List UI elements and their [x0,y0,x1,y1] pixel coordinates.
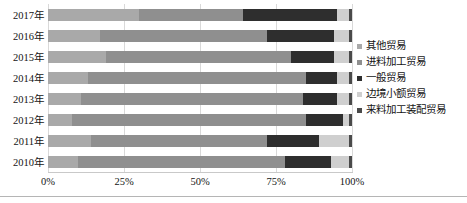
bar-segment [334,51,349,63]
legend-swatch-icon [357,44,362,49]
bar-segment [48,72,88,84]
x-axis-tick-labels: 0%25%50%75%100% [0,176,467,192]
bar-row [48,114,352,126]
bar-segment [48,114,72,126]
bar-segment [349,114,352,126]
x-axis-tick-label: 0% [28,176,68,188]
bar-segment [100,30,267,42]
bar-segment [331,156,349,168]
bar-segment [306,72,336,84]
y-axis-label: 2016年 [0,31,44,42]
bar-segment [48,156,78,168]
plot-area [48,4,352,172]
bar-row [48,93,352,105]
bar-row [48,72,352,84]
bar-segment [337,93,349,105]
legend-swatch-icon [357,92,362,97]
legend-swatch-icon [357,76,362,81]
stacked-bar-chart: 2017年2016年2015年2014年2013年2012年2011年2010年… [0,0,467,203]
bar-segment [243,9,337,21]
bar-segment [48,9,139,21]
bar-segment [139,9,242,21]
y-axis-label: 2011年 [0,136,44,147]
legend-label: 边境小额贸易 [366,88,426,100]
legend-label: 来料加工装配贸易 [366,104,446,116]
bar-segment [291,51,334,63]
bar-segment [349,93,352,105]
y-axis-label: 2014年 [0,73,44,84]
legend-swatch-icon [357,60,362,65]
y-axis-label: 2017年 [0,10,44,21]
bar-row [48,30,352,42]
bar-segment [337,72,349,84]
bar-segment [72,114,306,126]
y-axis-label: 2012年 [0,115,44,126]
legend-swatch-icon [357,108,362,113]
bar-segment [349,72,352,84]
chart-legend: 其他贸易进料加工贸易一般贸易边境小额贸易来料加工装配贸易 [357,38,467,118]
x-axis-tick-label: 75% [256,176,296,188]
bar-row [48,9,352,21]
bar-segment [267,30,334,42]
bar-segment [319,135,349,147]
legend-item[interactable]: 边境小额贸易 [357,86,467,102]
x-axis-line [48,172,353,173]
bar-segment [306,114,342,126]
legend-label: 其他贸易 [366,40,406,52]
bar-segment [349,135,352,147]
top-divider [0,0,467,1]
x-axis-tick-label: 25% [104,176,144,188]
bar-segment [349,51,352,63]
bar-segment [349,9,352,21]
y-axis-label: 2013年 [0,94,44,105]
bar-segment [349,30,352,42]
gridline-100 [352,4,353,172]
bar-segment [91,135,267,147]
bar-row [48,51,352,63]
bar-segment [337,9,349,21]
bar-segment [48,135,91,147]
bar-segment [349,156,352,168]
legend-item[interactable]: 进料加工贸易 [357,54,467,70]
bar-row [48,156,352,168]
bar-row [48,135,352,147]
bar-segment [48,51,106,63]
bar-segment [334,30,349,42]
legend-label: 进料加工贸易 [366,56,426,68]
bar-segment [106,51,291,63]
bar-segment [285,156,331,168]
bar-segment [78,156,285,168]
bar-segment [267,135,319,147]
legend-item[interactable]: 其他贸易 [357,38,467,54]
y-axis-label: 2015年 [0,52,44,63]
legend-item[interactable]: 来料加工装配贸易 [357,102,467,118]
bar-segment [48,93,81,105]
bar-segment [303,93,336,105]
bottom-divider [0,196,467,197]
legend-label: 一般贸易 [366,72,406,84]
x-axis-tick-label: 50% [180,176,220,188]
bar-segment [88,72,307,84]
bar-segment [48,30,100,42]
y-axis-labels: 2017年2016年2015年2014年2013年2012年2011年2010年 [0,4,44,172]
bar-segment [81,93,303,105]
legend-item[interactable]: 一般贸易 [357,70,467,86]
x-axis-tick-label: 100% [332,176,372,188]
y-axis-label: 2010年 [0,157,44,168]
